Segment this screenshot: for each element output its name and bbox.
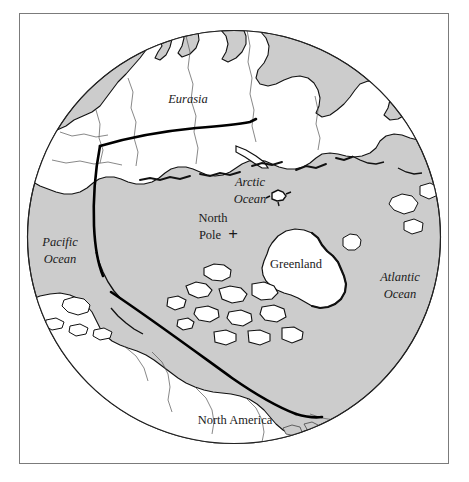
label-atlantic-ocean-line1: Atlantic [379, 270, 420, 284]
label-north-pole-line1: North [198, 211, 228, 225]
polar-map: Eurasia Arctic Ocean North Pole + Pacifi… [0, 0, 469, 482]
north-pole-marker-icon: + [228, 225, 238, 244]
label-arctic-ocean-line2: Ocean [234, 192, 267, 206]
label-atlantic-ocean-line2: Ocean [384, 287, 417, 301]
label-north-america: North America [198, 413, 273, 427]
iceland-landmass [343, 234, 361, 250]
label-greenland: Greenland [270, 257, 323, 271]
label-pacific-ocean-line1: Pacific [41, 235, 78, 249]
label-eurasia: Eurasia [167, 92, 208, 106]
label-arctic-ocean-line1: Arctic [234, 175, 266, 189]
label-north-pole-line2: Pole [199, 228, 222, 242]
map-figure: Eurasia Arctic Ocean North Pole + Pacifi… [0, 0, 469, 482]
label-pacific-ocean-line2: Ocean [44, 252, 77, 266]
